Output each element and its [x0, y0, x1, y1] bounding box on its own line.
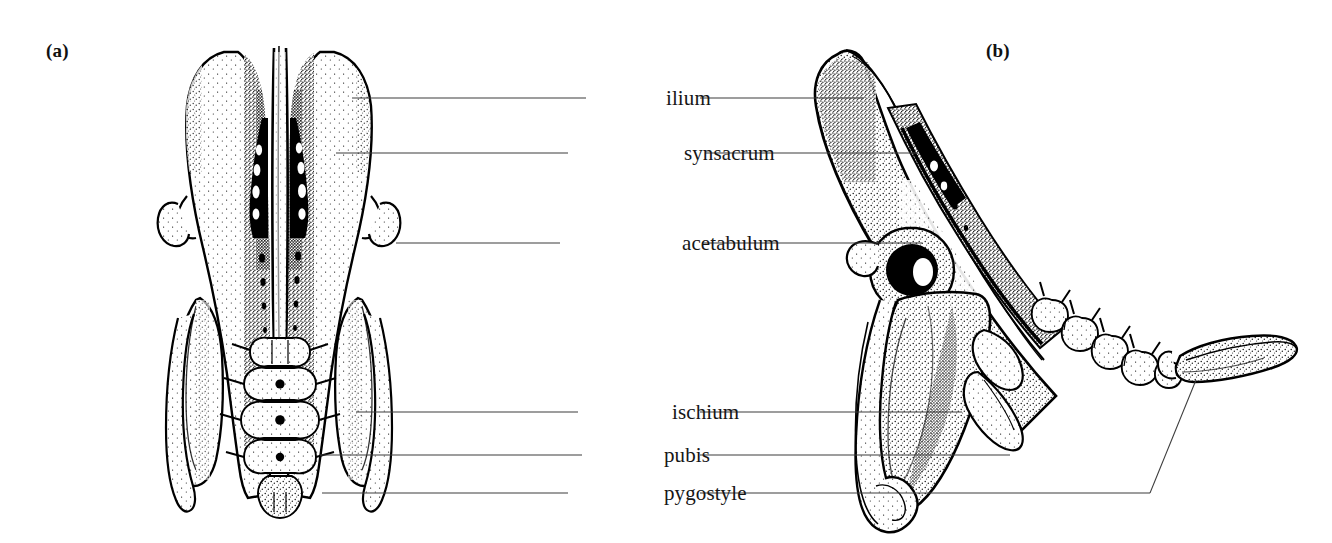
label-pubis: pubis [664, 443, 710, 468]
label-acetabulum: acetabulum [682, 231, 780, 256]
leader-elbow-pygostyle [1150, 380, 1196, 493]
panel-letter-b: (b) [986, 40, 1010, 62]
label-ischium: ischium [672, 400, 739, 425]
pygostyle-blade [1158, 335, 1297, 382]
panel-letter-a: (a) [46, 40, 69, 62]
label-pygostyle: pygostyle [664, 481, 747, 506]
label-synsacrum: synsacrum [684, 141, 775, 166]
anatomical-figure: (a) (b) iliumsynsacrumacetabulumischiump… [0, 0, 1332, 543]
label-ilium: ilium [666, 86, 711, 111]
panel-b-lateral-pelvis [815, 50, 1297, 532]
panel-a-dorsal-pelvis [158, 46, 401, 518]
